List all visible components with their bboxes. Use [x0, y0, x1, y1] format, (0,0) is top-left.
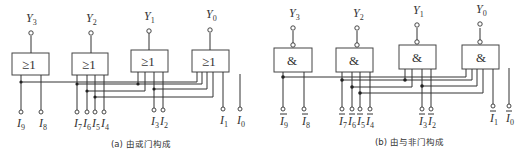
input-label-i1: I1: [219, 113, 228, 129]
input-label-i4: I4: [100, 116, 109, 132]
panel-a: ≥1 Y3 ≥1 Y2 ≥1 Y1 ≥1 Y0: [12, 7, 245, 149]
output-label-y1: Y1: [144, 9, 155, 25]
input-label-i9: I9: [16, 116, 25, 132]
bus-wires-a: [21, 72, 213, 97]
caption-a: (a) 由或门构成: [111, 139, 171, 149]
gate-symbol: &: [476, 50, 486, 65]
gate-symbol: &: [287, 53, 297, 68]
gate-symbol: ≥1: [22, 57, 36, 72]
nand-gate-y3: & Y3: [274, 6, 312, 72]
input-label-i3-bar: I3: [418, 114, 427, 130]
nand-gate-y1: & Y1: [399, 3, 436, 69]
gate-symbol: &: [412, 50, 422, 65]
or-gate-y2: ≥1 Y2: [72, 11, 108, 75]
gate-symbol: ≥1: [141, 54, 155, 69]
output-label-y2: Y2: [353, 6, 364, 22]
gate-symbol: ≥1: [82, 57, 96, 72]
input-label-i8-bar: I8: [301, 114, 310, 130]
input-label-i5-bar: I5: [356, 114, 365, 130]
input-label-i0-bar: I0: [505, 111, 514, 127]
output-label-y0: Y0: [206, 7, 217, 23]
input-label-i3: I3: [150, 114, 159, 130]
output-label-y0: Y0: [476, 2, 487, 18]
input-labels-a: I9 I8 I7 I6 I5 I4 I3 I2 I1 I0: [16, 113, 245, 132]
or-gate-y1: ≥1 Y1: [131, 9, 168, 72]
gate-symbol: ≥1: [202, 54, 216, 69]
input-pins-b: [281, 104, 511, 111]
input-label-i1-bar: I1: [489, 111, 498, 127]
input-label-i6: I6: [82, 116, 91, 132]
output-label-y2: Y2: [86, 11, 97, 27]
or-gate-y3: ≥1 Y3: [12, 11, 49, 75]
panel-b: & Y3 & Y2 & Y1 &: [274, 2, 514, 147]
input-label-i8: I8: [38, 116, 47, 132]
input-label-i2: I2: [159, 114, 168, 130]
input-labels-b: I9 I8 I7 I6 I5 I4 I3 I2 I1 I0: [279, 111, 514, 130]
input-label-i7-bar: I7: [338, 114, 347, 130]
output-label-y3: Y3: [26, 11, 37, 27]
gate-symbol: &: [349, 53, 359, 68]
encoder-figure: ≥1 Y3 ≥1 Y2 ≥1 Y1 ≥1 Y0: [0, 0, 526, 161]
output-label-y1: Y1: [413, 3, 424, 19]
input-label-i7: I7: [73, 116, 82, 132]
input-label-i9-bar: I9: [279, 114, 288, 130]
caption-b: (b) 由与非门构成: [375, 137, 444, 147]
nand-gate-y0: & Y0: [462, 2, 499, 69]
input-label-i4-bar: I4: [365, 114, 374, 130]
input-label-i0: I0: [236, 113, 245, 129]
circuit-diagrams: ≥1 Y3 ≥1 Y2 ≥1 Y1 ≥1 Y0: [0, 0, 526, 161]
nand-gate-y2: & Y2: [336, 6, 373, 72]
input-label-i5: I5: [91, 116, 100, 132]
input-pins-a: [19, 107, 242, 114]
input-label-i2-bar: I2: [427, 114, 436, 130]
input-label-i6-bar: I6: [347, 114, 356, 130]
output-label-y3: Y3: [289, 6, 300, 22]
bus-wires-b: [283, 69, 483, 93]
or-gate-y0: ≥1 Y0: [192, 7, 229, 72]
